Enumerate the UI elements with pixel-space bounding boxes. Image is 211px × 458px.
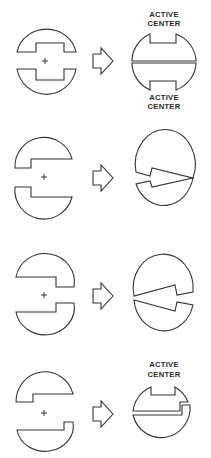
row1-right-top-half <box>132 34 196 61</box>
center-plus-icon <box>42 58 48 64</box>
active-center-label-top: ACTIVE <box>149 10 179 19</box>
row3-left-top-half <box>16 254 74 287</box>
row1-left-top-half <box>17 29 76 52</box>
row-4: ACTIVE CENTER <box>16 360 190 451</box>
center-plus-icon <box>41 292 47 298</box>
center-plus-icon <box>41 174 47 180</box>
row2-right-circle <box>135 130 195 178</box>
row4-left-top-half <box>16 372 73 402</box>
row4-right-upper <box>133 387 188 411</box>
row-3 <box>16 254 193 335</box>
row1-right-bottom-half <box>132 63 196 90</box>
row2-left-top-half <box>15 137 72 168</box>
row3-right-lower <box>134 300 193 331</box>
center-plus-icon <box>41 410 47 416</box>
transformation-diagram: ACTIVE CENTER ACTIVE CENTER <box>0 0 211 458</box>
row2-right-circle-lower <box>136 178 193 206</box>
active-center-label-bottom-line2: CENTER <box>147 102 180 111</box>
hollow-right-arrow-icon <box>93 283 113 309</box>
row3-left-bottom-half <box>16 303 74 335</box>
active-center-label-bottom: ACTIVE <box>149 93 179 102</box>
row3-right-upper <box>133 254 193 296</box>
hollow-right-arrow-icon <box>93 165 113 191</box>
hollow-right-arrow-icon <box>93 401 113 427</box>
row-2 <box>15 130 195 220</box>
active-center-label-top-line2: CENTER <box>147 19 180 28</box>
row2-left-bottom-half <box>15 187 72 219</box>
active-center-label-row4-line2: CENTER <box>147 370 180 379</box>
row4-left-bottom-half <box>17 422 73 451</box>
row-1: ACTIVE CENTER ACTIVE CENTER <box>17 10 196 111</box>
active-center-label-row4: ACTIVE <box>149 360 179 369</box>
hollow-right-arrow-icon <box>93 48 113 74</box>
row1-left-bottom-half <box>17 69 76 94</box>
